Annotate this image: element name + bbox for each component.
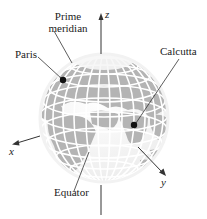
prime-meridian-label-line1: Prime xyxy=(38,10,98,22)
x-axis-label: x xyxy=(9,145,14,157)
calcutta-label: Calcutta xyxy=(160,45,197,57)
globe xyxy=(40,50,170,182)
equator-label: Equator xyxy=(54,186,89,198)
x-axis xyxy=(12,136,40,146)
paris-marker xyxy=(60,77,66,83)
prime-meridian-label: Prime meridian xyxy=(38,10,98,34)
calcutta-marker xyxy=(131,122,137,128)
y-axis-label: y xyxy=(161,176,166,188)
prime-meridian-label-line2: meridian xyxy=(38,22,98,34)
paris-label: Paris xyxy=(15,48,37,60)
globe-diagram: Prime meridian Paris Calcutta Equator z … xyxy=(0,0,207,219)
z-axis-label: z xyxy=(105,8,109,20)
globe-figure xyxy=(0,0,207,219)
